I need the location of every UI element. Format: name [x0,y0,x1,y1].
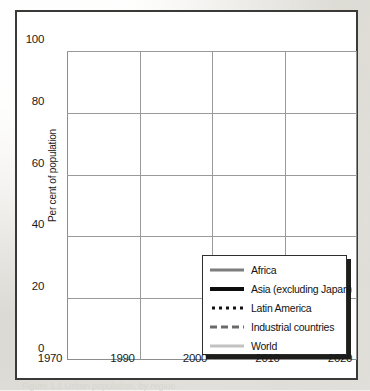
x-tick-label-2020: 2020 [312,352,368,364]
x-tick-label-2010: 2010 [240,352,296,364]
x-tick-label-1990: 1990 [95,352,151,364]
x-tick-label-2000: 2000 [167,352,223,364]
x-tick-label-1970: 1970 [22,352,78,364]
figure-caption: Figure 1.1 Urban population, by region [22,381,322,391]
